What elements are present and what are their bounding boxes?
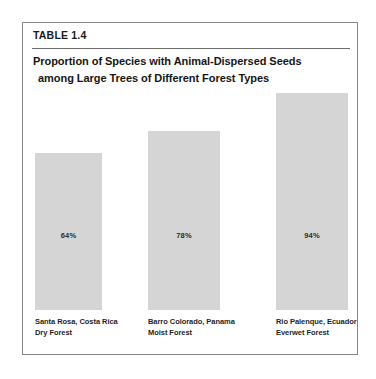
- bar-label-rio-palenque: Rio Palenque, Ecuador Everwet Forest: [276, 316, 358, 338]
- bar-label-rio-palenque-line-2: Everwet Forest: [276, 327, 358, 338]
- bar-group-barro-colorado: 78% Barro Colorado, Panama Moist Forest: [148, 131, 220, 310]
- bar-value-santa-rosa: 64%: [35, 231, 102, 240]
- bar-label-barro-colorado: Barro Colorado, Panama Moist Forest: [148, 316, 283, 338]
- bar-chart-plot-area: 64% Santa Rosa, Costa Rica Dry Forest 78…: [23, 23, 357, 354]
- bar-label-barro-colorado-line-2: Moist Forest: [148, 327, 283, 338]
- figure-frame: TABLE 1.4 Proportion of Species with Ani…: [22, 22, 358, 355]
- bar-value-rio-palenque: 94%: [276, 231, 348, 240]
- bar-group-santa-rosa: 64% Santa Rosa, Costa Rica Dry Forest: [35, 153, 102, 310]
- bar-rio-palenque: [276, 93, 348, 310]
- bar-label-barro-colorado-line-1: Barro Colorado, Panama: [148, 316, 283, 327]
- bar-label-rio-palenque-line-1: Rio Palenque, Ecuador: [276, 316, 358, 327]
- bar-barro-colorado: [148, 131, 220, 310]
- bar-value-barro-colorado: 78%: [148, 231, 220, 240]
- bar-group-rio-palenque: 94% Rio Palenque, Ecuador Everwet Forest: [276, 93, 348, 310]
